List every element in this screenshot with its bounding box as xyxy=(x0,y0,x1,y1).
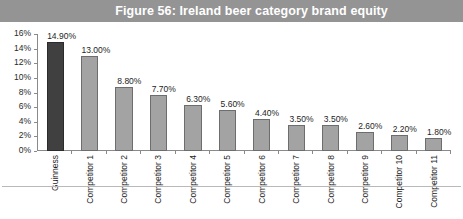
bar[interactable]: 2.60% xyxy=(356,132,373,151)
y-tick-label: 16% xyxy=(14,28,31,38)
y-tick-label: 2% xyxy=(19,130,31,140)
x-axis-label: Competitor 9 xyxy=(360,155,370,204)
bar[interactable]: 2.20% xyxy=(391,135,408,151)
bar-value-label: 6.30% xyxy=(186,94,210,104)
x-axis-label: Competitor 8 xyxy=(326,155,336,204)
y-tick-mark xyxy=(34,107,37,108)
figure-title: Figure 56: Ireland beer category brand e… xyxy=(75,4,388,18)
y-tick-label: 0% xyxy=(19,145,31,155)
figure-bottom-rule xyxy=(2,186,461,187)
bar-category: 1.80% xyxy=(417,34,451,151)
y-tick-mark xyxy=(34,78,37,79)
bar[interactable]: 3.50% xyxy=(322,125,339,151)
y-tick-label: 6% xyxy=(19,101,31,111)
bar-category: 2.20% xyxy=(382,34,416,151)
y-tick-label: 10% xyxy=(14,72,31,82)
y-tick-label: 4% xyxy=(19,116,31,126)
bar[interactable]: 8.80% xyxy=(115,87,132,151)
bar-value-label: 3.50% xyxy=(289,114,313,124)
bar-category: 4.40% xyxy=(245,34,279,151)
x-axis-label: Competitor 10 xyxy=(394,155,404,208)
bar-value-label: 3.50% xyxy=(324,114,348,124)
bar[interactable]: 13.00% xyxy=(81,56,98,151)
bar-category: 3.50% xyxy=(279,34,313,151)
bar-category: 2.60% xyxy=(348,34,382,151)
bar[interactable]: 6.30% xyxy=(184,105,201,151)
x-axis-label: Competitor 1 xyxy=(85,155,95,204)
bar[interactable]: 7.70% xyxy=(150,95,167,151)
bar[interactable]: 14.90% xyxy=(47,42,64,151)
y-tick-label: 12% xyxy=(14,57,31,67)
bar-value-label: 5.60% xyxy=(221,99,245,109)
y-tick-label: 8% xyxy=(19,87,31,97)
x-axis-label: Competitor 3 xyxy=(153,155,163,204)
bar-category: 13.00% xyxy=(72,34,106,151)
y-tick-mark xyxy=(34,93,37,94)
bar-category: 5.60% xyxy=(210,34,244,151)
bar[interactable]: 5.60% xyxy=(219,110,236,151)
y-tick-mark xyxy=(34,49,37,50)
bar-value-label: 2.60% xyxy=(358,121,382,131)
x-axis-label: Competitor 2 xyxy=(119,155,129,204)
y-tick-mark xyxy=(34,34,37,35)
bar-category: 7.70% xyxy=(141,34,175,151)
bar-value-label: 4.40% xyxy=(255,108,279,118)
x-axis-label: Competitor 4 xyxy=(188,155,198,204)
y-tick-mark xyxy=(34,151,37,152)
figure-container: Figure 56: Ireland beer category brand e… xyxy=(0,0,463,219)
y-tick-label: 14% xyxy=(14,43,31,53)
x-axis-label: Competitor 11 xyxy=(429,155,439,208)
bar-category: 14.90% xyxy=(38,34,72,151)
bar[interactable]: 1.80% xyxy=(425,138,442,151)
bar[interactable]: 4.40% xyxy=(253,119,270,151)
y-tick-mark xyxy=(34,122,37,123)
y-tick-mark xyxy=(34,63,37,64)
y-tick-mark xyxy=(34,136,37,137)
bar-value-label: 1.80% xyxy=(427,127,451,137)
bar[interactable]: 3.50% xyxy=(288,125,305,151)
chart-plot-area: 0%2%4%6%8%10%12%14%16% 14.90%13.00%8.80%… xyxy=(0,22,463,219)
x-axis-label: Competitor 5 xyxy=(222,155,232,204)
bar-category: 3.50% xyxy=(313,34,347,151)
bar-value-label: 2.20% xyxy=(393,124,417,134)
x-axis-label: Competitor 6 xyxy=(257,155,267,204)
bar-value-label: 8.80% xyxy=(117,76,141,86)
x-axis-label: Competitor 7 xyxy=(291,155,301,204)
figure-title-banner: Figure 56: Ireland beer category brand e… xyxy=(0,0,463,22)
bar-category: 8.80% xyxy=(107,34,141,151)
bar-category: 6.30% xyxy=(176,34,210,151)
bar-series: 14.90%13.00%8.80%7.70%6.30%5.60%4.40%3.5… xyxy=(38,34,451,151)
bar-value-label: 7.70% xyxy=(152,84,176,94)
